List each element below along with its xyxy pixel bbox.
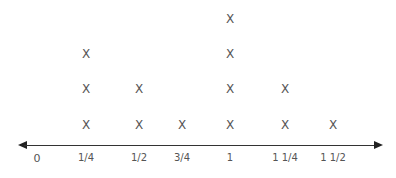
- x-mark: X: [281, 83, 289, 95]
- x-mark: X: [82, 48, 90, 60]
- x-mark: X: [329, 119, 337, 131]
- x-mark: X: [226, 119, 234, 131]
- x-mark: X: [135, 83, 143, 95]
- axis-arrow-right-icon: [374, 141, 383, 149]
- tick-label-1-1-4: 1 1/4: [272, 152, 298, 163]
- tick-label-1-1-2: 1 1/2: [320, 152, 346, 163]
- tick-label-3-4: 3/4: [174, 152, 190, 163]
- x-mark: X: [178, 119, 186, 131]
- number-line: [24, 145, 376, 146]
- tick-label-1: 1: [227, 152, 233, 163]
- tick-label-1-4: 1/4: [78, 152, 94, 163]
- x-mark: X: [226, 83, 234, 95]
- tick-label-0: 0: [34, 152, 41, 165]
- line-plot: 0 1/4 1/2 3/4 1 1 1/4 1 1/2 XXXXXXXXXXXX…: [0, 0, 396, 178]
- x-mark: X: [135, 119, 143, 131]
- x-mark: X: [281, 119, 289, 131]
- x-mark: X: [82, 119, 90, 131]
- tick-label-1-2: 1/2: [131, 152, 147, 163]
- x-mark: X: [226, 13, 234, 25]
- x-mark: X: [226, 48, 234, 60]
- x-mark: X: [82, 83, 90, 95]
